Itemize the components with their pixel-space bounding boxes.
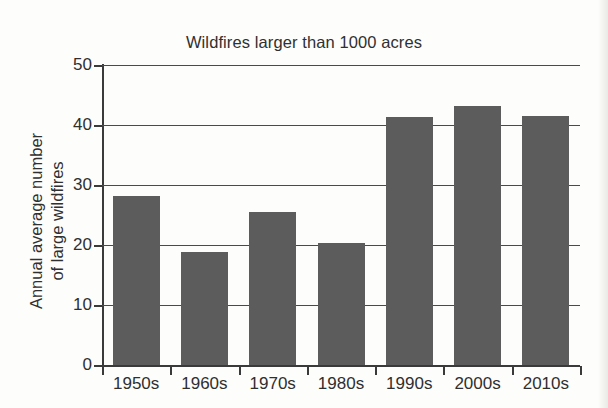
y-tick-label-40: 40 <box>0 115 104 135</box>
x-tick-label-2010s: 2010s <box>510 374 582 394</box>
y-tick-label-20: 20 <box>0 235 104 255</box>
bar-1950s <box>113 196 160 365</box>
plot-area <box>102 65 580 365</box>
x-tick-label-1980s: 1980s <box>305 374 377 394</box>
gridline-0 <box>102 365 580 367</box>
bar-1980s <box>318 243 365 365</box>
x-tick-label-1990s: 1990s <box>373 374 445 394</box>
x-tick-label-1960s: 1960s <box>168 374 240 394</box>
x-tick-label-1950s: 1950s <box>100 374 172 394</box>
gridline-50 <box>102 65 580 66</box>
y-tick-label-50: 50 <box>0 55 104 75</box>
bar-1970s <box>249 212 296 365</box>
bar-2010s <box>522 116 569 365</box>
chart-title: Wildfires larger than 1000 acres <box>0 33 608 52</box>
y-tick-label-0: 0 <box>0 355 104 375</box>
x-tick-label-2000s: 2000s <box>442 374 514 394</box>
bar-1990s <box>386 117 433 365</box>
y-tick-label-30: 30 <box>0 175 104 195</box>
chart-figure: Wildfires larger than 1000 acres Annual … <box>0 0 608 408</box>
y-tick-label-10: 10 <box>0 295 104 315</box>
gridline-40 <box>102 125 580 126</box>
y-axis-title: Annual average number of large wildfires <box>26 66 68 376</box>
bar-1960s <box>181 252 228 365</box>
x-tick-label-1970s: 1970s <box>237 374 309 394</box>
gridline-30 <box>102 185 580 186</box>
bar-2000s <box>454 106 501 365</box>
